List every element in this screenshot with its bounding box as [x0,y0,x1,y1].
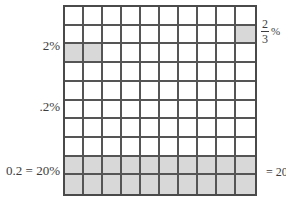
grid-cell [198,44,217,63]
percent-sign: % [271,26,280,37]
grid-cell [84,63,103,82]
grid-cell [160,82,179,101]
label-decimal-equals-twenty-percent: 0.2 = 20% [0,164,60,177]
grid-cell [141,119,160,138]
grid-cell [198,175,217,194]
grid-cell [141,44,160,63]
grid-cell [122,101,141,120]
grid-cell [103,138,122,157]
grid-cell [179,119,198,138]
grid-cell [84,26,103,45]
grid-cell [160,138,179,157]
grid-cell [198,63,217,82]
grid-cell [160,26,179,45]
grid-cell [217,157,236,176]
grid-cell [141,82,160,101]
grid-cell [217,44,236,63]
grid-cell [198,119,217,138]
grid-cell [198,7,217,26]
grid-cell [236,7,255,26]
grid-cell [103,44,122,63]
grid-cell [84,101,103,120]
grid-cell [65,7,84,26]
grid-cell [160,44,179,63]
grid-cell [122,138,141,157]
grid-cells-container [65,7,255,194]
grid-cell [103,63,122,82]
grid-cell [217,63,236,82]
grid-cell [179,101,198,120]
grid-cell [103,101,122,120]
grid-cell [179,175,198,194]
grid-cell [217,175,236,194]
grid-cell [236,82,255,101]
grid-cell [160,7,179,26]
grid-cell [65,138,84,157]
grid-cell [84,7,103,26]
grid-cell [122,175,141,194]
grid-cell [236,175,255,194]
grid-cell [141,101,160,120]
grid-cell [217,7,236,26]
grid-cell [217,82,236,101]
grid-cell [65,44,84,63]
grid-cell [179,138,198,157]
fraction-denominator: 3 [261,33,269,45]
grid-cell [160,101,179,120]
grid-cell [65,82,84,101]
grid-cell [236,119,255,138]
grid-cell [65,63,84,82]
grid-cell [84,138,103,157]
grid-cell [103,175,122,194]
grid-cell [217,26,236,45]
grid-cell [103,157,122,176]
label-point-two-percent: .2% [14,100,60,113]
grid-cell [236,26,255,45]
grid-cell [179,44,198,63]
grid-cell [141,138,160,157]
grid-cell [84,175,103,194]
grid-cell [141,63,160,82]
grid-cell [198,26,217,45]
grid-cell [103,7,122,26]
grid-cell [217,119,236,138]
grid-cell [84,157,103,176]
grid-cell [160,63,179,82]
grid-cell [160,157,179,176]
grid-cell [65,119,84,138]
grid-cell [122,7,141,26]
grid-cell [179,26,198,45]
grid-cell [160,175,179,194]
grid-cell [236,44,255,63]
grid-cell [141,157,160,176]
grid-cell [65,26,84,45]
grid-cell [84,44,103,63]
grid-cell [198,138,217,157]
grid-cell [84,119,103,138]
grid-cell [122,82,141,101]
grid-cell [122,119,141,138]
grid-cell [65,157,84,176]
grid-cell [84,82,103,101]
grid-cell [217,138,236,157]
fraction-numerator: 2 [261,18,269,30]
grid-cell [179,82,198,101]
grid-cell [236,101,255,120]
label-two-thirds-percent: 2 3 % [261,18,280,45]
label-two-percent: 2% [20,39,60,52]
percent-grid-diagram: 2% .2% 0.2 = 20% 2 3 % = 20 [0,0,286,201]
grid-cell [236,63,255,82]
percent-grid [63,5,257,196]
grid-cell [65,175,84,194]
grid-cell [103,82,122,101]
grid-cell [122,44,141,63]
grid-cell [103,119,122,138]
grid-cell [179,63,198,82]
grid-cell [103,26,122,45]
grid-cell [141,7,160,26]
grid-cell [198,82,217,101]
grid-cell [179,7,198,26]
grid-cell [179,157,198,176]
fraction-two-thirds: 2 3 [261,18,269,45]
grid-cell [141,26,160,45]
